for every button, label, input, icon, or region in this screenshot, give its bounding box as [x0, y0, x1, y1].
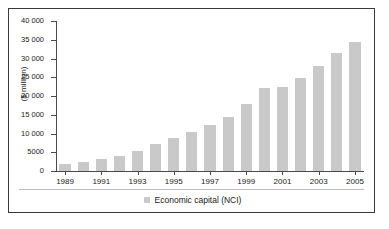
- y-axis-line: [56, 21, 57, 171]
- bar: [59, 164, 70, 171]
- x-tick: [210, 171, 211, 175]
- bar: [223, 117, 234, 171]
- legend-label: Economic capital (NCI): [155, 195, 242, 205]
- y-tick: 0: [51, 171, 56, 172]
- legend-separator: [19, 189, 364, 190]
- bar: [259, 88, 270, 171]
- bar: [313, 66, 324, 171]
- bar: [331, 53, 342, 171]
- bar: [186, 132, 197, 171]
- bar: [114, 156, 125, 171]
- x-tick-label: 1991: [92, 177, 110, 187]
- bar: [132, 151, 143, 171]
- y-tick: 5000: [51, 152, 56, 153]
- bar: [96, 159, 107, 171]
- x-tick-label: 1993: [129, 177, 147, 187]
- bar: [349, 42, 360, 171]
- y-tick: 30 000: [51, 59, 56, 60]
- bar: [277, 87, 288, 171]
- x-tick-label: 2005: [346, 177, 364, 187]
- y-tick-label: 25 000: [21, 72, 44, 81]
- y-tick-label: 40 000: [21, 16, 44, 25]
- y-tick-label: 0: [40, 166, 44, 175]
- y-tick-label: 30 000: [21, 54, 44, 63]
- x-tick: [246, 171, 247, 175]
- x-tick-label: 1995: [165, 177, 183, 187]
- chart-figure: ($ million) 0500010 00015 00020 00025 00…: [8, 8, 375, 213]
- x-tick-label: 1997: [201, 177, 219, 187]
- y-tick-label: 10 000: [21, 129, 44, 138]
- x-tick: [319, 171, 320, 175]
- x-tick-label: 1999: [237, 177, 255, 187]
- plot-area: 0500010 00015 00020 00025 00030 00035 00…: [56, 21, 364, 171]
- bar: [78, 162, 89, 171]
- x-tick-label: 2001: [274, 177, 292, 187]
- bar: [150, 144, 161, 171]
- x-tick: [101, 171, 102, 175]
- x-tick-label: 2003: [310, 177, 328, 187]
- y-tick-label: 15 000: [21, 110, 44, 119]
- bar: [168, 138, 179, 171]
- y-tick: 10 000: [51, 134, 56, 135]
- y-tick: 20 000: [51, 96, 56, 97]
- x-tick: [138, 171, 139, 175]
- y-tick-label: 35 000: [21, 35, 44, 44]
- x-tick: [65, 171, 66, 175]
- bar: [204, 125, 215, 171]
- y-tick: 15 000: [51, 115, 56, 116]
- x-tick: [174, 171, 175, 175]
- y-tick-label: 20 000: [21, 91, 44, 100]
- y-tick: 25 000: [51, 77, 56, 78]
- legend-swatch-icon: [144, 197, 150, 203]
- x-tick: [355, 171, 356, 175]
- x-tick-label: 1989: [56, 177, 74, 187]
- bar: [241, 104, 252, 171]
- chart-legend: Economic capital (NCI): [9, 195, 376, 205]
- bar: [295, 78, 306, 171]
- x-tick: [282, 171, 283, 175]
- y-tick-label: 5000: [27, 147, 44, 156]
- y-tick: 35 000: [51, 40, 56, 41]
- y-tick: 40 000: [51, 21, 56, 22]
